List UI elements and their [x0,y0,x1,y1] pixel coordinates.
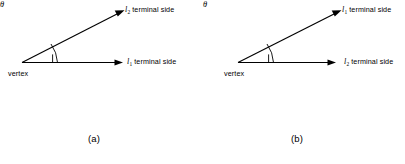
lower-ray-label-b: l2 terminal side [344,58,393,66]
upper-ray-subscript-b: 1 [344,9,347,15]
lower-ray-id-a: l1 [127,57,132,66]
angle-diagram-panel-a: l2 terminal side l1 terminal side vertex… [0,0,202,164]
lower-ray-arrowhead-a [115,59,124,65]
upper-ray-line-a [22,14,118,63]
upper-ray-line-b [238,14,335,63]
lower-ray-text-a: terminal side [134,57,176,66]
panel-caption-b: (b) [291,133,303,144]
lower-ray-id-b: l2 [344,57,349,66]
lower-ray-text-b: terminal side [351,57,393,66]
panel-caption-a: (a) [88,133,100,144]
lower-ray-subscript-b: 2 [346,61,349,67]
upper-ray-id-b: l1 [342,5,347,14]
upper-ray-id-a: l2 [125,5,130,14]
upper-ray-label-a: l2 terminal side [125,6,174,14]
lower-ray-subscript-a: 1 [129,61,132,67]
upper-ray-text-b: terminal side [349,5,391,14]
upper-ray-subscript-a: 2 [127,9,130,15]
lower-ray-arrowhead-b [328,59,337,65]
angle-figure: l2 terminal side l1 terminal side vertex… [0,0,405,164]
upper-ray-label-b: l1 terminal side [342,6,391,14]
upper-ray-text-a: terminal side [132,5,174,14]
upper-ray-arrowhead-b [332,10,342,16]
vertex-label-b: vertex [224,70,244,77]
lower-ray-label-a: l1 terminal side [127,58,176,66]
vertex-label-a: vertex [8,70,28,77]
angle-diagram-panel-b: l1 terminal side l2 terminal side vertex… [203,0,405,164]
upper-ray-arrowhead-a [115,10,125,16]
